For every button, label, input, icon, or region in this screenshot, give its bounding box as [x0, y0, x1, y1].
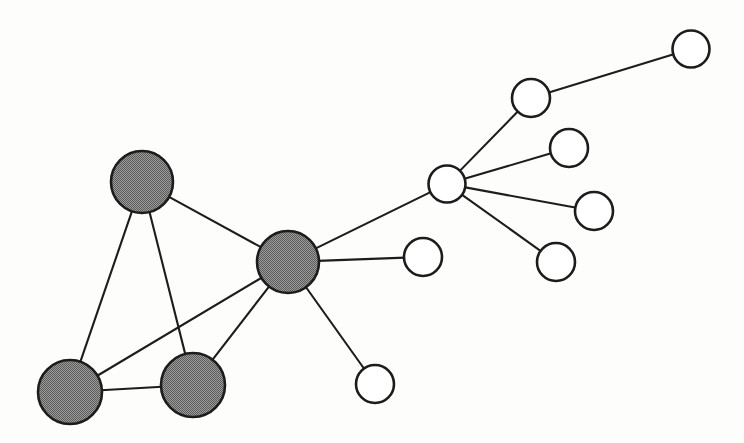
graph-edge	[212, 286, 270, 361]
graph-node-filled[interactable]	[38, 360, 102, 424]
graph-node-filled[interactable]	[111, 151, 173, 213]
graph-edge	[464, 187, 576, 208]
graph-edge	[318, 258, 405, 261]
graph-edge	[459, 111, 518, 172]
graph-edge	[168, 196, 262, 247]
graph-node-hollow[interactable]	[429, 166, 466, 203]
graph-node-filled[interactable]	[161, 353, 225, 417]
graph-edge	[461, 194, 541, 252]
graph-edge	[101, 387, 162, 391]
graph-edge	[305, 286, 364, 369]
graph-node-hollow[interactable]	[404, 238, 442, 276]
graph-edge	[80, 210, 132, 363]
graph-node-hollow[interactable]	[673, 31, 710, 68]
node-layer	[38, 31, 710, 425]
graph-node-hollow[interactable]	[356, 365, 394, 403]
graph-edge	[464, 153, 552, 179]
network-diagram-figure	[0, 0, 744, 443]
graph-node-filled[interactable]	[257, 231, 319, 293]
graph-node-hollow[interactable]	[550, 129, 588, 167]
graph-canvas	[0, 0, 744, 443]
graph-edge	[548, 54, 674, 93]
graph-node-hollow[interactable]	[575, 192, 613, 230]
graph-node-hollow[interactable]	[537, 243, 575, 281]
graph-node-hollow[interactable]	[512, 79, 550, 117]
